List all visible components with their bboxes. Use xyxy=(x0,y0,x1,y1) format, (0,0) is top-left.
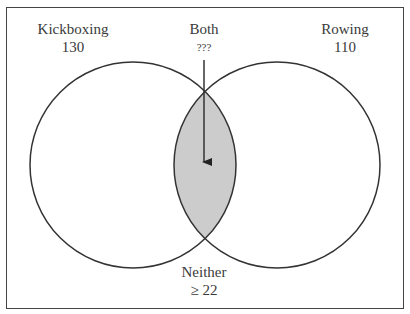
rowing-label: Rowing 110 xyxy=(290,20,400,56)
intersection-region xyxy=(174,62,380,268)
rowing-value: 110 xyxy=(290,38,400,56)
kickboxing-value: 130 xyxy=(18,38,128,56)
neither-name: Neither xyxy=(182,264,227,280)
kickboxing-name: Kickboxing xyxy=(38,21,109,37)
both-value: ??? xyxy=(164,38,244,56)
kickboxing-label: Kickboxing 130 xyxy=(18,20,128,56)
neither-label: Neither ≥ 22 xyxy=(164,263,244,299)
both-name: Both xyxy=(189,21,218,37)
rowing-name: Rowing xyxy=(321,21,369,37)
both-label: Both ??? xyxy=(164,20,244,56)
neither-value: ≥ 22 xyxy=(164,281,244,299)
